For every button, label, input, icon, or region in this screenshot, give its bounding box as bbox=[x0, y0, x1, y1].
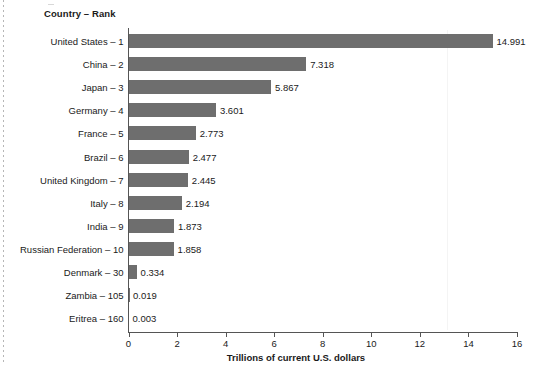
bar-row bbox=[129, 150, 189, 164]
category-label: Japan – 3 bbox=[0, 80, 124, 95]
x-tick-label: 8 bbox=[303, 338, 343, 350]
bar-row bbox=[129, 173, 188, 187]
bar-value-label: 2.477 bbox=[193, 150, 217, 165]
bar-row bbox=[129, 311, 130, 325]
bar bbox=[129, 126, 196, 140]
bar-row bbox=[129, 80, 271, 94]
x-tick-mark bbox=[420, 333, 421, 337]
x-tick-mark bbox=[274, 333, 275, 337]
bar bbox=[129, 173, 188, 187]
x-tick-label: 10 bbox=[351, 338, 391, 350]
x-tick-mark bbox=[129, 333, 130, 337]
x-tick-label: 0 bbox=[109, 338, 149, 350]
column-header-country-rank: Country – Rank bbox=[44, 8, 116, 19]
x-tick-label: 14 bbox=[448, 338, 488, 350]
category-label: Eritrea – 160 bbox=[0, 311, 124, 326]
x-axis-title: Trillions of current U.S. dollars bbox=[0, 352, 540, 363]
bar-value-label: 14.991 bbox=[497, 34, 526, 49]
bar-row bbox=[129, 242, 174, 256]
category-label: France – 5 bbox=[0, 126, 124, 141]
bar-value-label: 0.019 bbox=[133, 288, 157, 303]
category-label: United Kingdom – 7 bbox=[0, 173, 124, 188]
category-label: Germany – 4 bbox=[0, 103, 124, 118]
bar-row bbox=[129, 219, 174, 233]
bar bbox=[129, 34, 493, 48]
x-tick-label: 6 bbox=[254, 338, 294, 350]
bar-row bbox=[129, 196, 182, 210]
category-label: India – 9 bbox=[0, 219, 124, 234]
category-label: Italy – 8 bbox=[0, 196, 124, 211]
bar-row bbox=[129, 57, 307, 71]
bar-row bbox=[129, 34, 493, 48]
bar bbox=[129, 103, 216, 117]
bar-value-label: 0.003 bbox=[133, 311, 157, 326]
x-tick-mark bbox=[177, 333, 178, 337]
x-tick-label: 16 bbox=[497, 338, 537, 350]
bar-value-label: 2.773 bbox=[200, 126, 224, 141]
bar-value-label: 0.334 bbox=[141, 265, 165, 280]
bar bbox=[129, 265, 137, 279]
x-axis-title-text: Trillions of current U.S. dollars bbox=[175, 352, 365, 363]
x-tick-mark bbox=[371, 333, 372, 337]
bar bbox=[129, 196, 182, 210]
bar-value-label: 3.601 bbox=[220, 103, 244, 118]
category-label: Zambia – 105 bbox=[0, 288, 124, 303]
bar-value-label: 5.867 bbox=[275, 80, 299, 95]
x-tick-label: 4 bbox=[206, 338, 246, 350]
x-tick-mark bbox=[226, 333, 227, 337]
bar-value-label: 1.858 bbox=[178, 242, 202, 257]
bar bbox=[129, 150, 189, 164]
x-tick-mark bbox=[323, 333, 324, 337]
bar-row bbox=[129, 126, 196, 140]
bar-value-label: 1.873 bbox=[178, 219, 202, 234]
bar-value-label: 2.194 bbox=[186, 196, 210, 211]
bar-row bbox=[129, 103, 216, 117]
bar bbox=[129, 242, 174, 256]
bar bbox=[129, 57, 307, 71]
category-label: Russian Federation – 10 bbox=[0, 242, 124, 257]
category-label: China – 2 bbox=[0, 57, 124, 72]
corner-tick-mark bbox=[48, 4, 54, 5]
category-label: Denmark – 30 bbox=[0, 265, 124, 280]
bar-row bbox=[129, 265, 137, 279]
x-tick-mark bbox=[468, 333, 469, 337]
bar-value-label: 7.318 bbox=[310, 57, 334, 72]
bar bbox=[129, 80, 271, 94]
bar-row bbox=[129, 288, 130, 302]
x-tick-label: 12 bbox=[400, 338, 440, 350]
bar bbox=[129, 219, 174, 233]
bar-value-label: 2.445 bbox=[192, 173, 216, 188]
category-label: Brazil – 6 bbox=[0, 150, 124, 165]
category-label: United States – 1 bbox=[0, 34, 124, 49]
x-tick-mark bbox=[517, 333, 518, 337]
x-tick-label: 2 bbox=[157, 338, 197, 350]
gdp-bar-chart-figure: Country – Rank Trillions of current U.S.… bbox=[0, 0, 540, 365]
